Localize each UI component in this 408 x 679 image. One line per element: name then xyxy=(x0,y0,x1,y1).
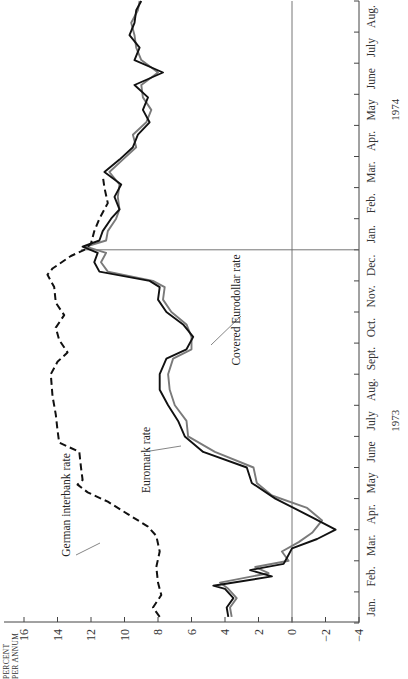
year-label: 1973 xyxy=(389,409,401,432)
month-label: Mar. xyxy=(365,534,377,556)
euromark-rate-line xyxy=(83,1,336,617)
month-label: Jan. xyxy=(365,598,377,616)
value-tick-label: 4 xyxy=(218,629,232,635)
value-tick-label: 6 xyxy=(185,629,199,635)
value-tick-label: 14 xyxy=(51,629,65,641)
value-tick-label: 8 xyxy=(151,629,165,635)
value-axis: 1614121086420−2−4 xyxy=(4,617,366,642)
month-label: May xyxy=(365,472,378,493)
euromark-rate-label: Euromark rate xyxy=(140,427,152,493)
month-label: Sept. xyxy=(365,347,378,370)
month-label: June xyxy=(365,68,377,89)
year-label: 1974 xyxy=(389,98,401,121)
month-label: June xyxy=(365,441,377,462)
month-label: Feb. xyxy=(365,193,377,213)
month-label: Apr. xyxy=(365,131,378,151)
month-label: July xyxy=(365,38,378,57)
covered-eurodollar-rate-label: Covered Eurodollar rate xyxy=(230,254,242,365)
annotation-leader-line xyxy=(150,446,181,451)
value-axis-unit-label-line1: PERCENT xyxy=(2,643,11,679)
value-tick-label: −2 xyxy=(319,629,333,642)
reference-lines xyxy=(81,1,359,623)
month-label: Jan. xyxy=(365,225,377,243)
time-axis: Jan.Feb.Mar.Apr.MayJuneJulyAug.Sept.Oct.… xyxy=(354,1,401,623)
month-label: May xyxy=(365,99,378,120)
month-label: Mar. xyxy=(365,161,377,183)
month-label: July xyxy=(365,411,378,430)
covered-eurodollar-rate-line xyxy=(86,1,322,617)
month-label: Apr. xyxy=(365,504,378,524)
month-label: Aug. xyxy=(365,378,378,401)
month-label: Oct. xyxy=(365,318,377,338)
value-tick-label: 10 xyxy=(118,629,132,641)
value-tick-label: 0 xyxy=(285,629,299,635)
value-axis-unit-label-line2: PER ANNUM xyxy=(11,633,20,679)
rotated-line-chart: 1614121086420−2−4 Jan.Feb.Mar.Apr.MayJun… xyxy=(0,0,408,679)
month-label: Aug. xyxy=(365,5,378,28)
value-tick-label: −4 xyxy=(352,629,366,642)
month-label: Dec. xyxy=(365,255,377,277)
value-tick-label: 2 xyxy=(252,629,266,635)
annotations: German interbank rateEuromark rateCovere… xyxy=(60,254,242,556)
month-label: Nov. xyxy=(365,285,377,307)
german-interbank-rate-label: German interbank rate xyxy=(60,453,72,556)
annotation-leader-line xyxy=(76,543,100,555)
value-tick-label: 12 xyxy=(84,629,98,641)
month-label: Feb. xyxy=(365,566,377,586)
